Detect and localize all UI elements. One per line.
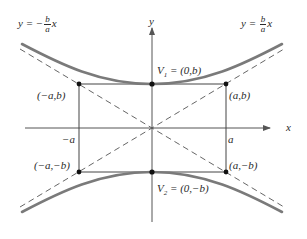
vertex-v2-point [149, 169, 154, 174]
asymptote-right-suffix: x [267, 17, 272, 29]
asymptote-right-label: y = bax [241, 15, 272, 34]
corner-top-left-point [77, 82, 82, 87]
corner-top-right-point [224, 82, 229, 87]
vertex-v1-value: = (0,b) [167, 64, 201, 76]
asymptote-left-suffix: x [52, 17, 57, 29]
corner-top-right-label: (a,b) [229, 90, 250, 101]
corner-bottom-right-label: (a,−b) [229, 160, 258, 171]
fraction-denominator: a [44, 25, 51, 34]
corner-top-left-label: (−a,b) [37, 90, 66, 101]
corner-bottom-right-point [224, 170, 229, 175]
diagram-canvas [0, 0, 307, 239]
tick-a-label: a [228, 134, 234, 145]
vertex-v1-label: V1 = (0,b) [157, 65, 201, 79]
asymptote-right-prefix: y = [241, 17, 259, 29]
asymptote-left-prefix: y = − [18, 17, 43, 29]
corner-bottom-left-label: (−a,−b) [34, 160, 70, 171]
vertex-v2-name: V [157, 182, 164, 194]
asymptote-left-label: y = −bax [18, 15, 57, 34]
x-axis-label: x [286, 122, 291, 133]
asymptote-left-fraction: ba [44, 15, 51, 34]
hyperbola-diagram: y = −bax y = bax y x −a a V1 = (0,b) V2 … [0, 0, 307, 239]
tick-neg-a-label: −a [62, 134, 75, 145]
vertex-v1-name: V [157, 64, 164, 76]
corner-bottom-left-point [77, 170, 82, 175]
vertex-v2-label: V2 = (0,−b) [157, 183, 209, 197]
fraction-denominator: a [260, 25, 267, 34]
y-axis-label: y [149, 16, 154, 27]
vertex-v2-value: = (0,−b) [167, 182, 208, 194]
asymptote-right-fraction: ba [260, 15, 267, 34]
vertex-v1-point [149, 81, 154, 86]
